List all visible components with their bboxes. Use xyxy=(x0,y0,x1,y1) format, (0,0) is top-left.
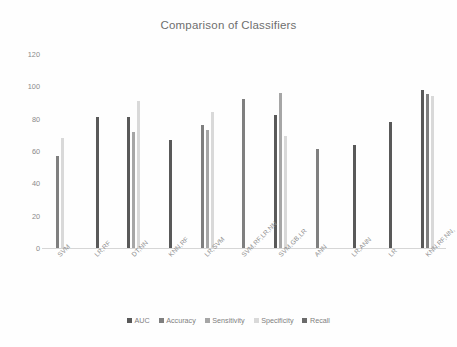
bar-group xyxy=(409,54,446,248)
bar xyxy=(61,138,64,248)
bar xyxy=(389,122,392,248)
bar-group xyxy=(373,54,410,248)
legend-item[interactable]: AUC xyxy=(127,316,150,325)
y-axis-tick: 120 xyxy=(6,50,40,59)
bar xyxy=(132,132,135,248)
bar xyxy=(137,101,140,248)
legend-item[interactable]: Specificity xyxy=(254,316,294,325)
legend-item[interactable]: Accuracy xyxy=(159,316,196,325)
bar xyxy=(169,140,172,248)
bar-group xyxy=(79,54,116,248)
legend-swatch-icon xyxy=(302,318,307,323)
plot-area xyxy=(42,54,446,248)
bar xyxy=(242,99,245,248)
bar xyxy=(56,156,59,248)
bar-group xyxy=(42,54,79,248)
legend-swatch-icon xyxy=(159,318,164,323)
bar xyxy=(96,117,99,248)
bar-group xyxy=(226,54,263,248)
bar-group xyxy=(336,54,373,248)
legend-label: Specificity xyxy=(261,316,293,325)
legend-label: Sensitivity xyxy=(212,316,244,325)
legend-label: Recall xyxy=(310,316,330,325)
bar-group xyxy=(189,54,226,248)
chart-container: Comparison of Classifiers 02040608010012… xyxy=(0,0,457,347)
legend-item[interactable]: Recall xyxy=(302,316,329,325)
bar xyxy=(316,149,319,248)
bar xyxy=(127,117,130,248)
bar xyxy=(201,125,204,248)
legend-swatch-icon xyxy=(127,318,132,323)
y-axis: 020406080100120 xyxy=(6,48,40,254)
y-axis-tick: 80 xyxy=(6,114,40,123)
legend-item[interactable]: Sensitivity xyxy=(205,316,245,325)
bar-group xyxy=(115,54,152,248)
y-axis-tick: 20 xyxy=(6,211,40,220)
y-axis-tick: 0 xyxy=(6,244,40,253)
x-axis-label: LR xyxy=(387,247,398,258)
bar xyxy=(284,136,287,248)
bar xyxy=(206,130,209,248)
x-axis-labels: SVMLR,RFDT,NNKNN,RFLR,SVMSVM,RF,LR,NNSVM… xyxy=(42,249,446,309)
bar xyxy=(426,94,429,248)
legend-label: Accuracy xyxy=(166,316,196,325)
bar xyxy=(211,112,214,248)
bar xyxy=(279,93,282,248)
bar xyxy=(353,145,356,248)
y-axis-tick: 40 xyxy=(6,179,40,188)
chart-title: Comparison of Classifiers xyxy=(0,19,457,31)
chart-legend: AUCAccuracySensitivitySpecificityRecall xyxy=(0,316,457,325)
bar-group xyxy=(299,54,336,248)
y-axis-tick: 100 xyxy=(6,82,40,91)
bar-group xyxy=(152,54,189,248)
legend-swatch-icon xyxy=(254,318,259,323)
legend-label: AUC xyxy=(135,316,150,325)
bar xyxy=(421,90,424,248)
y-axis-tick: 60 xyxy=(6,147,40,156)
legend-swatch-icon xyxy=(205,318,210,323)
bar-group xyxy=(262,54,299,248)
bar xyxy=(431,96,434,248)
